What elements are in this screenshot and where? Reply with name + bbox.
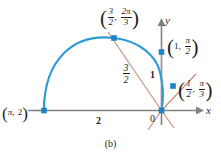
- label-point-3over2-2pi-over-3: (32, 2π3): [100, 7, 139, 28]
- label-point-pi-2: (π, 2): [2, 104, 28, 121]
- frac-theta-2pi-over-3: 2π3: [121, 7, 132, 27]
- label-y-tick-1: 1: [150, 70, 155, 80]
- frac-denominator: 3: [123, 18, 130, 28]
- frac-numerator: 2π: [121, 7, 132, 18]
- frac-numerator: 3: [108, 7, 115, 18]
- frac-r-3over2: 32: [108, 7, 115, 27]
- label-x-tick-2: 2: [96, 116, 101, 126]
- label-comma: ,: [115, 13, 120, 22]
- marker-point-3over2-2pi-over-3: [111, 35, 117, 41]
- frac-theta-pi-over-2: π2: [185, 36, 192, 56]
- axes-group: [28, 18, 204, 125]
- marker-point-1-pi-over-2: [159, 49, 165, 55]
- frac-denominator: 2: [123, 74, 130, 85]
- frac-denominator: 2: [108, 18, 115, 28]
- paren-close: ): [22, 105, 28, 122]
- x-axis-arrowhead: [196, 107, 204, 115]
- frac-numerator: 3: [123, 63, 130, 75]
- label-point-1-pi-over-2: (1, π2): [167, 36, 199, 57]
- label-comma: ,: [179, 42, 184, 51]
- label-point-1over2-pi-over-3: (12, π3): [178, 79, 213, 100]
- frac-numerator: π: [199, 79, 206, 90]
- label-axis-x: x: [206, 105, 211, 116]
- paren-open: (: [100, 8, 107, 29]
- frac-denominator: 2: [185, 47, 192, 57]
- label-origin: 0: [150, 114, 155, 124]
- frac-denominator: 2: [186, 90, 193, 100]
- polar-curve-figure: (π, 2) (32, 2π3) (1, π2) (12, π3) 32 1 2…: [0, 0, 221, 159]
- polar-arc-curve: [44, 37, 163, 110]
- paren-open: (: [178, 80, 185, 101]
- frac-r-1over2: 12: [186, 79, 193, 99]
- marker-point-pi-2: [41, 108, 47, 114]
- marker-point-1over2-pi-over-3: [170, 83, 176, 89]
- frac-numerator: 1: [186, 79, 193, 90]
- label-axis-y: y: [165, 15, 170, 26]
- paren-close: ): [192, 37, 199, 58]
- marker-point-origin: [159, 108, 165, 114]
- figure-caption: (b): [0, 138, 221, 149]
- paren-close: ): [132, 8, 139, 29]
- paren-open: (: [2, 105, 8, 122]
- frac-denominator: 3: [199, 90, 206, 100]
- frac-numerator: π: [185, 36, 192, 47]
- label-comma: ,: [193, 85, 198, 94]
- frac-theta-pi-over-3: π3: [199, 79, 206, 99]
- label-pi-2-comma: ,: [12, 108, 17, 117]
- label-segment-3-over-2: 32: [122, 63, 130, 85]
- paren-close: ): [206, 80, 213, 101]
- frac-3over2: 32: [123, 63, 130, 85]
- paren-open: (: [167, 37, 174, 58]
